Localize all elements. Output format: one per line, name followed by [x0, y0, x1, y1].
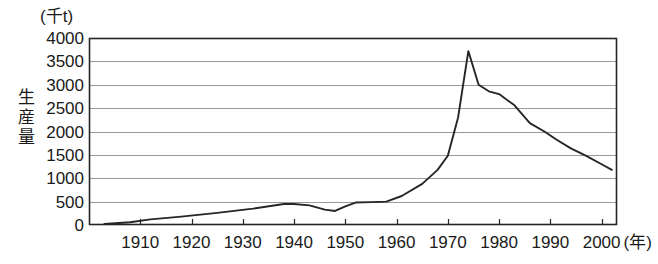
gridline-group — [89, 62, 617, 203]
x-axis-tick-label: 1920 — [173, 234, 211, 251]
y-axis-tick-label: 4000 — [28, 30, 84, 47]
x-axis-tick-label: 1910 — [121, 234, 159, 251]
y-axis-tick-label: 2000 — [28, 124, 84, 141]
x-axis-tick-label: 1980 — [480, 234, 518, 251]
y-axis-tick-label: 3500 — [28, 53, 84, 70]
x-axis-tick-label: 1960 — [378, 234, 416, 251]
plot-frame-border — [90, 39, 617, 225]
y-axis-tick-label: 2500 — [28, 100, 84, 117]
x-axis-tick-label: 1940 — [275, 234, 313, 251]
production-line-chart: (千t) 生産量 4000350030002500200015001000500… — [0, 0, 658, 264]
x-axis-tick-label: 1930 — [224, 234, 262, 251]
plot-area — [0, 0, 658, 264]
x-axis-tick-label: 1970 — [429, 234, 467, 251]
y-axis-tick-label-group: 40003500300025002000150010005000 — [26, 0, 84, 264]
x-axis-tick-label: 1990 — [531, 234, 569, 251]
y-axis-tick-label: 1000 — [28, 170, 84, 187]
y-axis-tick-label: 500 — [28, 194, 84, 211]
y-axis-tick-label: 0 — [28, 217, 84, 234]
x-axis-tick-label: 2000 — [583, 234, 621, 251]
x-axis-tick-label: 1950 — [326, 234, 364, 251]
y-axis-tick-label: 1500 — [28, 147, 84, 164]
y-axis-tick-label: 3000 — [28, 77, 84, 94]
series-line-production — [104, 51, 611, 224]
x-axis-unit-label: (年) — [624, 234, 652, 251]
